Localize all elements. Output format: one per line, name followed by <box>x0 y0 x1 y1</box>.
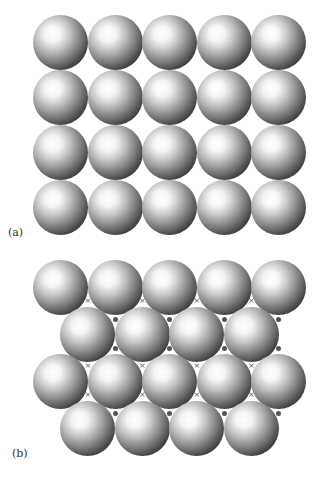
sphere <box>142 125 197 180</box>
interstice-dot-marker <box>222 346 227 351</box>
sphere <box>142 180 197 235</box>
sphere <box>142 70 197 125</box>
sphere <box>197 15 252 70</box>
sphere <box>251 15 306 70</box>
panel-a-label: (a) <box>8 226 23 239</box>
sphere <box>33 15 88 70</box>
sphere <box>197 125 252 180</box>
sphere <box>197 260 252 315</box>
interstice-dot-marker <box>276 317 281 322</box>
sphere <box>88 260 143 315</box>
sphere <box>224 401 279 456</box>
interstice-dot-marker <box>276 411 281 416</box>
interstice-dot-marker <box>113 411 118 416</box>
sphere <box>169 307 224 362</box>
sphere <box>115 401 170 456</box>
sphere <box>88 125 143 180</box>
interstice-dot-marker <box>113 317 118 322</box>
sphere <box>88 180 143 235</box>
sphere <box>142 354 197 409</box>
sphere <box>60 401 115 456</box>
sphere <box>251 125 306 180</box>
interstice-x-marker: × <box>84 297 92 305</box>
sphere <box>197 70 252 125</box>
interstice-dot-marker <box>222 317 227 322</box>
interstice-dot-marker <box>113 346 118 351</box>
sphere <box>142 15 197 70</box>
interstice-x-marker: × <box>247 297 255 305</box>
sphere <box>33 260 88 315</box>
sphere <box>33 180 88 235</box>
sphere <box>224 307 279 362</box>
interstice-x-marker: × <box>84 362 92 370</box>
interstice-x-marker: × <box>193 362 201 370</box>
interstice-dot-marker <box>222 411 227 416</box>
interstice-x-marker: × <box>193 297 201 305</box>
interstice-x-marker: × <box>138 391 146 399</box>
sphere <box>33 354 88 409</box>
interstice-x-marker: × <box>138 297 146 305</box>
sphere <box>142 260 197 315</box>
interstice-dot-marker <box>167 317 172 322</box>
interstice-dot-marker <box>276 346 281 351</box>
sphere <box>251 354 306 409</box>
interstice-x-marker: × <box>84 391 92 399</box>
sphere <box>88 15 143 70</box>
sphere <box>169 401 224 456</box>
sphere <box>197 180 252 235</box>
interstice-dot-marker <box>167 411 172 416</box>
interstice-x-marker: × <box>138 362 146 370</box>
sphere <box>251 180 306 235</box>
sphere <box>88 70 143 125</box>
sphere <box>88 354 143 409</box>
interstice-x-marker: × <box>247 391 255 399</box>
sphere <box>33 125 88 180</box>
sphere <box>251 70 306 125</box>
sphere <box>33 70 88 125</box>
sphere <box>251 260 306 315</box>
interstice-x-marker: × <box>247 362 255 370</box>
panel-b-label: (b) <box>12 447 28 460</box>
sphere <box>115 307 170 362</box>
interstice-dot-marker <box>167 346 172 351</box>
interstice-x-marker: × <box>193 391 201 399</box>
sphere <box>60 307 115 362</box>
sphere <box>197 354 252 409</box>
